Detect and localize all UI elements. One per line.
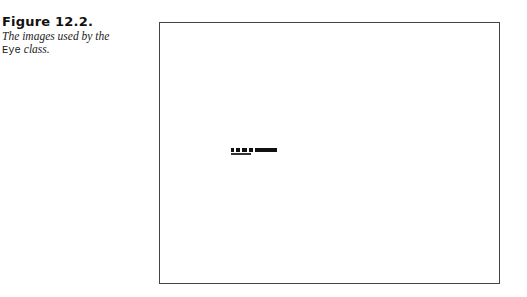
eye-image [249,148,253,152]
caption-text-2: class. [24,43,50,55]
caption-code: Eye [2,44,21,56]
figure-frame [159,22,500,284]
eye-image [242,148,247,152]
eye-image [236,148,240,152]
figure-caption: Figure 12.2. The images used by the Eye … [2,14,152,57]
figure-description: The images used by the Eye class. [2,30,152,57]
eye-images-strip [231,148,277,152]
figure-number: Figure 12.2. [2,14,152,30]
caption-text-1: The images used by the [2,30,109,42]
eye-image-bar [255,148,277,152]
eye-images-underline [231,153,251,155]
eye-image [231,148,234,152]
